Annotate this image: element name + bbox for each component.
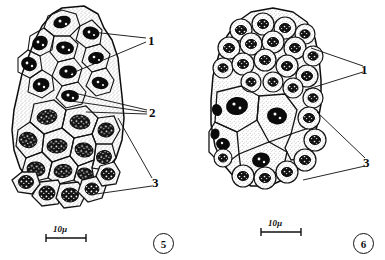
scale-bar-figure-5 bbox=[46, 234, 86, 242]
figure-6-panel: 1 3 10µ 6 bbox=[193, 0, 385, 260]
figure-number-6: 6 bbox=[353, 233, 374, 254]
figure-6-drawing bbox=[193, 0, 385, 260]
callout-label-3: 3 bbox=[152, 176, 159, 189]
scale-bar-figure-6 bbox=[261, 228, 301, 236]
callout-label-1: 1 bbox=[361, 63, 368, 76]
figure-number-5: 5 bbox=[153, 233, 174, 254]
callout-label-3: 3 bbox=[363, 156, 370, 169]
figure-5-drawing bbox=[0, 0, 192, 260]
callout-label-2: 2 bbox=[149, 106, 156, 119]
callout-label-1: 1 bbox=[148, 34, 155, 47]
illustration-plate: 1 2 3 10µ 5 bbox=[0, 0, 385, 260]
scale-bar-label: 10µ bbox=[53, 224, 67, 234]
cell-mass-body bbox=[0, 0, 192, 260]
figure-5-panel: 1 2 3 10µ 5 bbox=[0, 0, 192, 260]
scale-bar-label: 10µ bbox=[268, 218, 282, 228]
